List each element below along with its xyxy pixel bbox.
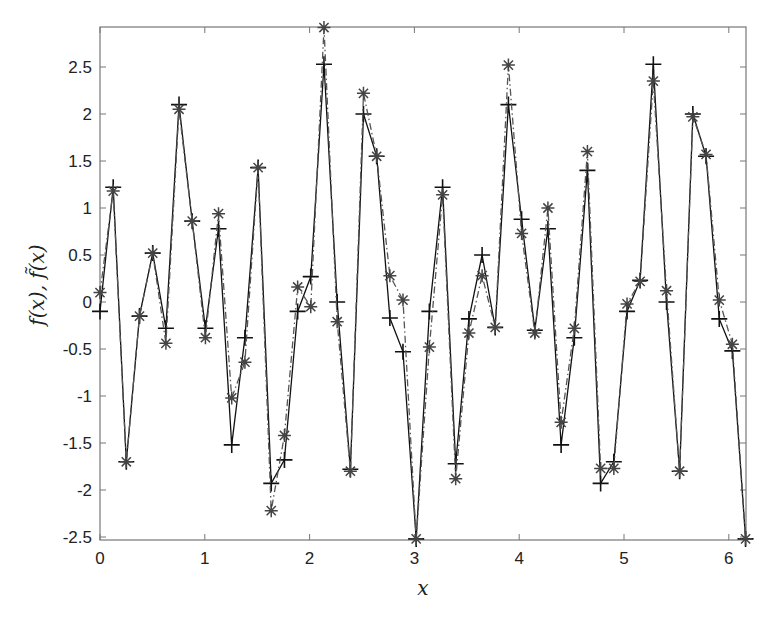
plus-marker-icon [474,247,490,263]
x-axis-label: x [417,576,428,600]
y-tick-label: -1 [77,387,92,406]
star-marker-icon [291,280,304,293]
star-marker-icon [713,294,726,307]
x-tick-label: 0 [95,549,104,568]
star-marker-icon [686,110,699,123]
y-tick-label: 1.5 [68,152,92,171]
star-marker-icon [265,504,278,517]
star-marker-icon [528,327,541,340]
x-axis-ticks: 0123456 [95,27,733,568]
star-marker-icon [212,207,225,220]
star-marker-icon [541,202,554,215]
star-marker-icon [581,145,594,158]
star-marker-icon [107,185,120,198]
star-marker-icon [173,103,186,116]
plus-marker-icon [514,211,530,227]
plus-marker-icon [92,303,108,319]
y-tick-label: 1 [83,199,92,218]
y-tick-label: 0.5 [68,246,92,265]
series-line [100,28,746,539]
star-marker-icon [739,532,752,545]
star-marker-icon [383,269,396,282]
star-marker-icon [726,338,739,351]
series-f-solid-plus [92,56,754,547]
x-tick-label: 4 [514,549,523,568]
y-tick-label: 2.5 [68,58,92,77]
star-marker-icon [568,322,581,335]
star-marker-icon [700,148,713,161]
star-marker-icon [673,465,686,478]
y-tick-label: -0.5 [63,340,92,359]
plus-marker-icon [645,56,661,72]
y-tick-label: -1.5 [63,434,92,453]
plus-marker-icon [224,437,240,453]
x-tick-label: 5 [619,549,628,568]
star-marker-icon [278,429,291,442]
star-marker-icon [146,247,159,260]
star-marker-icon [120,455,133,468]
star-marker-icon [344,465,357,478]
star-marker-icon [252,161,265,174]
star-marker-icon [502,59,515,72]
star-marker-icon [423,341,436,354]
y-tick-label: -2.5 [63,528,92,547]
plus-marker-icon [237,330,253,346]
star-marker-icon [410,532,423,545]
star-marker-icon [594,462,607,475]
plus-marker-icon [461,311,477,327]
plus-marker-icon [540,221,556,237]
star-marker-icon [238,356,251,369]
star-marker-icon [133,310,146,323]
star-marker-icon [515,227,528,240]
star-marker-icon [449,472,462,485]
star-marker-icon [621,297,634,310]
star-marker-icon [357,87,370,100]
star-marker-icon [186,215,199,228]
plus-marker-icon [500,97,516,113]
star-marker-icon [607,462,620,475]
star-marker-icon [94,286,107,299]
plus-marker-icon [553,437,569,453]
star-marker-icon [396,294,409,307]
star-marker-icon [660,284,673,297]
x-tick-label: 3 [410,549,419,568]
star-marker-icon [370,150,383,163]
series-line [100,64,746,539]
series-ftilde-dashdot-star [94,21,753,545]
plot-border [100,27,746,540]
star-marker-icon [304,300,317,313]
plus-marker-icon [211,221,227,237]
star-marker-icon [436,188,449,201]
star-marker-icon [476,269,489,282]
plus-marker-icon [421,303,437,319]
x-tick-label: 1 [200,549,209,568]
star-marker-icon [462,327,475,340]
plus-marker-icon [303,269,319,285]
plus-marker-icon [329,294,345,310]
plot-frame [100,27,746,540]
x-tick-label: 2 [305,549,314,568]
plus-marker-icon [711,311,727,327]
star-marker-icon [225,391,238,404]
star-marker-icon [489,321,502,334]
line-chart: 0123456 -2.5-2-1.5-1-0.500.511.522.5 x f… [0,0,772,618]
star-marker-icon [159,337,172,350]
y-tick-label: -2 [77,481,92,500]
y-axis-label: f(x), f̃(x) [25,244,49,327]
star-marker-icon [317,21,330,34]
plus-marker-icon [382,310,398,326]
star-marker-icon [199,331,212,344]
star-marker-icon [634,275,647,288]
star-marker-icon [331,315,344,328]
plus-marker-icon [316,56,332,72]
star-marker-icon [555,416,568,429]
y-tick-label: 0 [83,293,92,312]
plus-marker-icon [593,475,609,491]
star-marker-icon [647,75,660,88]
plus-marker-icon [276,452,292,468]
x-tick-label: 6 [724,549,733,568]
plus-marker-icon [395,344,411,360]
y-tick-label: 2 [83,105,92,124]
plus-marker-icon [290,303,306,319]
